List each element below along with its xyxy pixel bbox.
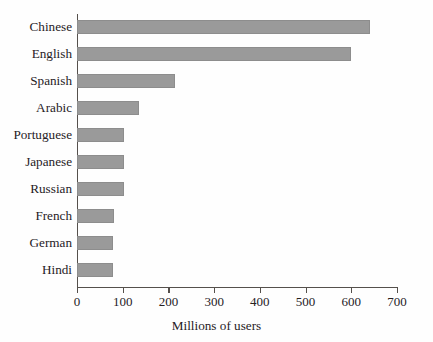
x-axis-tick (351, 288, 352, 293)
x-axis-tick-label: 700 (387, 294, 407, 310)
bar-row: Japanese (77, 149, 397, 176)
x-axis-tick (397, 288, 398, 293)
category-label: Russian (30, 180, 72, 197)
x-axis-tick (214, 288, 215, 293)
bar (77, 155, 124, 169)
x-axis-tick-label: 300 (204, 294, 224, 310)
category-label: Spanish (30, 72, 72, 89)
x-axis-title: Millions of users (0, 318, 433, 334)
bar (77, 263, 113, 277)
bar (77, 74, 175, 88)
bar-row: Russian (77, 176, 397, 203)
bar-row: Hindi (77, 257, 397, 284)
x-axis-tick (168, 288, 169, 293)
x-axis-tick-label: 100 (113, 294, 133, 310)
bar-row: Portuguese (77, 122, 397, 149)
x-axis-tick (260, 288, 261, 293)
x-axis-tick-label: 500 (296, 294, 316, 310)
category-label: Hindi (42, 261, 72, 278)
bar (77, 47, 351, 61)
bar (77, 209, 114, 223)
x-axis-tick (306, 288, 307, 293)
x-axis-tick-label: 200 (159, 294, 179, 310)
category-label: Portuguese (13, 126, 72, 143)
bar-row: French (77, 203, 397, 230)
bar (77, 236, 113, 250)
x-axis-tick (77, 288, 78, 293)
bar (77, 182, 124, 196)
category-label: Chinese (30, 18, 73, 35)
bar-row: English (77, 41, 397, 68)
bar-row: Chinese (77, 14, 397, 41)
bar (77, 20, 370, 34)
x-axis-tick (123, 288, 124, 293)
x-axis-tick-label: 600 (342, 294, 362, 310)
category-label: Arabic (36, 99, 72, 116)
bar-row: Spanish (77, 68, 397, 95)
x-axis-line (77, 287, 398, 288)
plot-area: ChineseEnglishSpanishArabicPortugueseJap… (77, 14, 397, 287)
category-label: German (30, 234, 72, 251)
bar-chart: ChineseEnglishSpanishArabicPortugueseJap… (0, 0, 433, 342)
bar (77, 128, 124, 142)
category-label: French (35, 207, 72, 224)
x-axis-tick-label: 0 (74, 294, 81, 310)
x-axis-tick-label: 400 (250, 294, 270, 310)
bar (77, 101, 139, 115)
bar-row: German (77, 230, 397, 257)
category-label: English (32, 45, 72, 62)
category-label: Japanese (25, 153, 72, 170)
bar-row: Arabic (77, 95, 397, 122)
